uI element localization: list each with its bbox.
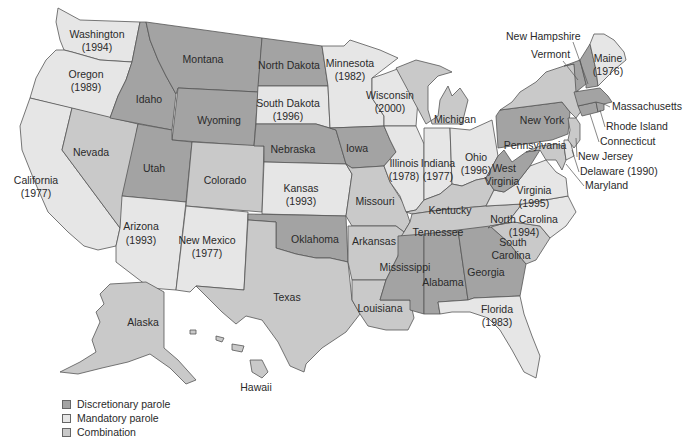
label-new-york: New York bbox=[520, 114, 565, 126]
label-vermont: Vermont bbox=[531, 48, 570, 60]
label-new-jersey: New Jersey bbox=[578, 150, 634, 162]
label-alaska: Alaska bbox=[127, 316, 159, 328]
label-arizona: Arizona bbox=[123, 220, 159, 232]
label-kentucky: Kentucky bbox=[428, 204, 472, 216]
label-california: California bbox=[14, 174, 59, 186]
label-michigan: Michigan bbox=[434, 113, 476, 125]
label-wisconsin: Wisconsin bbox=[366, 89, 414, 101]
legend-item-combination: Combination bbox=[62, 425, 170, 439]
label-washington-year: (1994) bbox=[82, 41, 112, 53]
label-indiana: Indiana bbox=[421, 157, 456, 169]
label-wisconsin-year: (2000) bbox=[375, 102, 405, 114]
label-washington: Washington bbox=[69, 28, 124, 40]
label-virginia: Virginia bbox=[517, 184, 552, 196]
label-california-year: (1977) bbox=[21, 187, 51, 199]
label-alabama: Alabama bbox=[422, 276, 464, 288]
label-west-virginia-1: West bbox=[492, 162, 516, 174]
label-illinois-year: (1978) bbox=[389, 170, 419, 182]
label-louisiana: Louisiana bbox=[358, 302, 403, 314]
legend-swatch-mandatory bbox=[62, 414, 71, 423]
label-tennessee: Tennessee bbox=[413, 226, 464, 238]
label-idaho: Idaho bbox=[136, 93, 162, 105]
label-iowa: Iowa bbox=[346, 142, 368, 154]
label-virginia-year: (1995) bbox=[519, 197, 549, 209]
label-oregon-year: (1989) bbox=[71, 81, 101, 93]
legend-swatch-discretionary bbox=[62, 400, 71, 409]
label-wyoming: Wyoming bbox=[197, 114, 241, 126]
label-utah: Utah bbox=[143, 162, 165, 174]
label-minnesota-year: (1982) bbox=[335, 70, 365, 82]
label-texas: Texas bbox=[273, 291, 300, 303]
state-hawaii-islands bbox=[190, 330, 244, 352]
legend-swatch-combination bbox=[62, 428, 71, 437]
label-new-hampshire: New Hampshire bbox=[506, 30, 581, 42]
state-hawaii bbox=[250, 360, 268, 378]
label-missouri: Missouri bbox=[355, 195, 394, 207]
label-south-dakota-year: (1996) bbox=[273, 110, 303, 122]
label-south-dakota: South Dakota bbox=[256, 97, 320, 109]
label-new-mexico: New Mexico bbox=[178, 234, 235, 246]
label-arizona-year: (1993) bbox=[126, 234, 156, 246]
label-maine: Maine bbox=[594, 52, 623, 64]
label-ohio: Ohio bbox=[465, 151, 487, 163]
legend: Discretionary parole Mandatory parole Co… bbox=[62, 397, 170, 439]
label-north-carolina: North Carolina bbox=[490, 213, 558, 225]
label-kansas: Kansas bbox=[283, 182, 318, 194]
label-oregon: Oregon bbox=[68, 68, 103, 80]
label-massachusetts: Massachusetts bbox=[612, 100, 682, 112]
label-north-carolina-year: (1994) bbox=[509, 226, 539, 238]
label-florida: Florida bbox=[481, 303, 513, 315]
label-hawaii: Hawaii bbox=[240, 381, 272, 393]
label-nevada: Nevada bbox=[73, 146, 109, 158]
label-pennsylvania: Pennsylvania bbox=[504, 139, 567, 151]
label-arkansas: Arkansas bbox=[352, 235, 396, 247]
label-colorado: Colorado bbox=[204, 174, 247, 186]
label-florida-year: (1983) bbox=[482, 316, 512, 328]
legend-label-combination: Combination bbox=[77, 426, 136, 438]
label-oklahoma: Oklahoma bbox=[291, 233, 339, 245]
label-rhode-island: Rhode Island bbox=[606, 120, 668, 132]
label-maine-year: (1976) bbox=[593, 65, 623, 77]
label-kansas-year: (1993) bbox=[286, 195, 316, 207]
label-nebraska: Nebraska bbox=[271, 143, 316, 155]
state-alaska bbox=[60, 282, 196, 384]
label-illinois: Illinois bbox=[389, 157, 418, 169]
label-minnesota: Minnesota bbox=[326, 57, 375, 69]
legend-item-discretionary: Discretionary parole bbox=[62, 397, 170, 411]
label-mississippi: Mississippi bbox=[380, 261, 431, 273]
label-delaware: Delaware (1990) bbox=[580, 165, 658, 177]
label-west-virginia-2: Virginia bbox=[485, 175, 520, 187]
label-indiana-year: (1977) bbox=[423, 170, 453, 182]
label-north-dakota: North Dakota bbox=[258, 59, 320, 71]
label-connecticut: Connecticut bbox=[600, 135, 656, 147]
label-montana: Montana bbox=[183, 53, 224, 65]
us-parole-map: Washington (1994) Oregon (1989) Californ… bbox=[0, 0, 688, 440]
label-south-carolina-2: Carolina bbox=[491, 249, 530, 261]
label-maryland: Maryland bbox=[585, 179, 628, 191]
label-new-mexico-year: (1977) bbox=[192, 247, 222, 259]
legend-item-mandatory: Mandatory parole bbox=[62, 411, 170, 425]
label-georgia: Georgia bbox=[467, 266, 505, 278]
legend-label-discretionary: Discretionary parole bbox=[77, 398, 170, 410]
legend-label-mandatory: Mandatory parole bbox=[77, 412, 159, 424]
